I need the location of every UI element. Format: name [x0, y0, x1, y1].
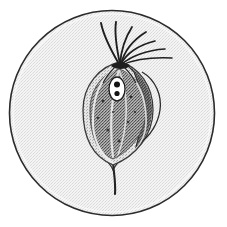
nucleus	[109, 77, 125, 101]
endosome-lower	[114, 91, 119, 96]
nucleus-envelope	[109, 77, 125, 101]
figure-root: Flagellated protozoan in microscope fiel…	[0, 0, 227, 227]
microscope-field-illustration	[0, 0, 227, 227]
endosome-upper	[114, 82, 120, 88]
